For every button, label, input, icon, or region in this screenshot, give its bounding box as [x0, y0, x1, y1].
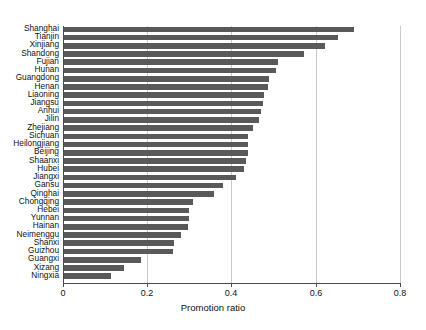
- promotion-ratio-bar-chart: 0 0.2 0.4 0.6 0.8 Promotion ratio Shangh…: [0, 0, 426, 330]
- bar-row: Hainan: [0, 223, 426, 231]
- bar: [64, 216, 189, 222]
- bar: [64, 142, 248, 148]
- bar-row: Shanxi: [0, 240, 426, 248]
- bar-row: Zhejiang: [0, 125, 426, 133]
- x-axis-line: [63, 283, 401, 284]
- bar: [64, 27, 354, 33]
- bar-row: Guangdong: [0, 75, 426, 83]
- bar-row: Ningxia: [0, 273, 426, 281]
- x-tick-mark-0.2: [147, 283, 148, 287]
- x-tick-mark-0: [63, 283, 64, 287]
- bar: [64, 150, 248, 156]
- bar: [64, 232, 181, 238]
- bar: [64, 224, 188, 230]
- bar-row: Henan: [0, 84, 426, 92]
- bar-row: Liaoning: [0, 92, 426, 100]
- bar: [64, 273, 111, 279]
- bar: [64, 68, 276, 74]
- bar-row: Guizhou: [0, 248, 426, 256]
- bar: [64, 240, 174, 246]
- bar-row: Xinjiang: [0, 42, 426, 50]
- bar: [64, 84, 268, 90]
- bar-row: Yunnan: [0, 215, 426, 223]
- bar: [64, 175, 236, 181]
- bar: [64, 51, 304, 57]
- x-tick-label-0: 0: [60, 288, 65, 298]
- bar-row: Jiangxi: [0, 174, 426, 182]
- bar: [64, 35, 338, 41]
- x-tick-label-0.2: 0.2: [141, 288, 154, 298]
- bar: [64, 101, 263, 107]
- bar-row: Hunan: [0, 67, 426, 75]
- x-tick-label-0.4: 0.4: [225, 288, 238, 298]
- bar-row: Hubei: [0, 166, 426, 174]
- bar-row: Shaanxi: [0, 158, 426, 166]
- bar: [64, 199, 193, 205]
- bar-row: Shanghai: [0, 26, 426, 34]
- bar-category-label: Ningxia: [31, 271, 59, 280]
- bar: [64, 249, 173, 255]
- bar-row: Fujian: [0, 59, 426, 67]
- bar-row: Xizang: [0, 265, 426, 273]
- bar: [64, 43, 325, 49]
- bar: [64, 191, 214, 197]
- bar: [64, 134, 248, 140]
- bar-row: Tianjin: [0, 34, 426, 42]
- bar: [64, 125, 253, 131]
- bar: [64, 158, 246, 164]
- bar-rows: ShanghaiTianjinXinjiangShandongFujianHun…: [0, 26, 426, 281]
- bar-row: Gansu: [0, 182, 426, 190]
- bar: [64, 109, 261, 115]
- bar-row: Sichuan: [0, 133, 426, 141]
- bar: [64, 265, 124, 271]
- bar: [64, 166, 244, 172]
- bar: [64, 183, 223, 189]
- bar: [64, 257, 141, 263]
- bar-row: Jiangsu: [0, 100, 426, 108]
- bar-row: Heilongjiang: [0, 141, 426, 149]
- bar-row: Qinghai: [0, 191, 426, 199]
- bar-row: Hebei: [0, 207, 426, 215]
- bar-row: Beijing: [0, 149, 426, 157]
- bar-row: Guangxi: [0, 256, 426, 264]
- x-tick-label-0.6: 0.6: [310, 288, 323, 298]
- bar-row: Jilin: [0, 116, 426, 124]
- bar: [64, 117, 259, 123]
- x-tick-mark-0.8: [400, 283, 401, 287]
- bar: [64, 59, 278, 65]
- bar-row: Anhui: [0, 108, 426, 116]
- x-tick-label-0.8: 0.8: [394, 288, 407, 298]
- bar-row: Chongqing: [0, 199, 426, 207]
- bar-row: Shandong: [0, 51, 426, 59]
- bar: [64, 76, 269, 82]
- bar-row: Neimenggu: [0, 232, 426, 240]
- x-axis-label: Promotion ratio: [0, 302, 426, 313]
- x-tick-mark-0.6: [316, 283, 317, 287]
- bar: [64, 92, 264, 98]
- bar: [64, 208, 189, 214]
- x-tick-mark-0.4: [231, 283, 232, 287]
